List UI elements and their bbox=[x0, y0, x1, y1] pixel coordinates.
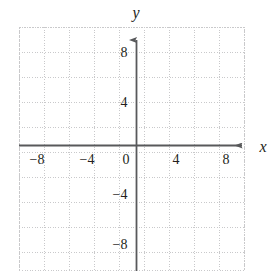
grid-lines-horizontal bbox=[19, 28, 245, 253]
x-tick-label-4: 4 bbox=[173, 153, 180, 167]
x-tick-label--4: −4 bbox=[80, 153, 95, 167]
x-axis-label: x bbox=[259, 139, 266, 155]
coordinate-plane-figure: x y −8 −4 0 4 8 8 4 −4 −8 bbox=[0, 0, 280, 280]
x-tick-label-0: 0 bbox=[123, 153, 130, 167]
y-axis-label: y bbox=[132, 5, 139, 21]
x-tick-label-8: 8 bbox=[223, 153, 230, 167]
y-tick-label--4: −4 bbox=[113, 188, 128, 202]
y-tick-label--8: −8 bbox=[113, 238, 128, 252]
grid-and-axes-svg bbox=[0, 0, 280, 280]
x-tick-label--8: −8 bbox=[30, 153, 45, 167]
y-tick-label-8: 8 bbox=[121, 46, 128, 60]
grid-border bbox=[20, 28, 245, 271]
y-tick-label-4: 4 bbox=[121, 96, 128, 110]
grid-lines-vertical bbox=[20, 27, 245, 270]
